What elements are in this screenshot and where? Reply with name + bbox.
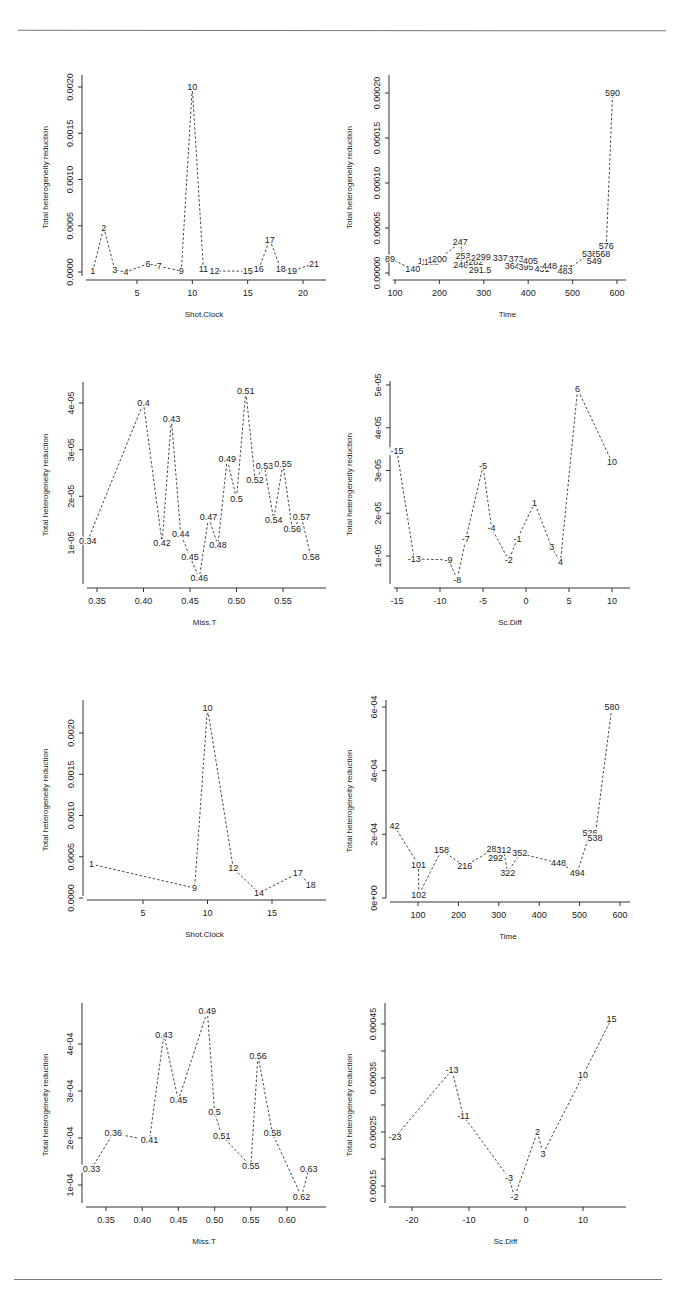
chart-sc-diff-bottom: -20-100100.000150.000250.000350.00045Sc.… — [0, 0, 676, 1313]
data-point-label: -11 — [457, 1111, 469, 1121]
y-tick-label: 0.00015 — [368, 1170, 378, 1203]
y-tick-label: 0.00045 — [368, 1008, 378, 1041]
data-point-label: -3 — [505, 1173, 513, 1183]
data-point-label: 15 — [606, 1014, 616, 1024]
data-point-label: 3 — [541, 1149, 546, 1159]
y-tick-label: 0.00025 — [368, 1116, 378, 1149]
bottom-divider — [14, 1279, 662, 1280]
data-series-line — [395, 1019, 612, 1197]
data-point-label: 10 — [578, 1070, 588, 1080]
data-point-label: -13 — [445, 1065, 458, 1075]
data-point-label: 2 — [535, 1127, 540, 1137]
x-tick-label: 0 — [523, 1215, 528, 1225]
x-tick-label: -20 — [405, 1215, 418, 1225]
data-point-label: -2 — [511, 1192, 519, 1202]
x-tick-label: -10 — [462, 1215, 475, 1225]
y-axis-label: Total heterogeneity reduction — [345, 1054, 354, 1157]
x-tick-label: 10 — [578, 1215, 588, 1225]
y-tick-label: 0.00035 — [368, 1062, 378, 1095]
data-point-label: -23 — [388, 1132, 401, 1142]
x-axis-label: Sc.Diff — [494, 1237, 518, 1246]
